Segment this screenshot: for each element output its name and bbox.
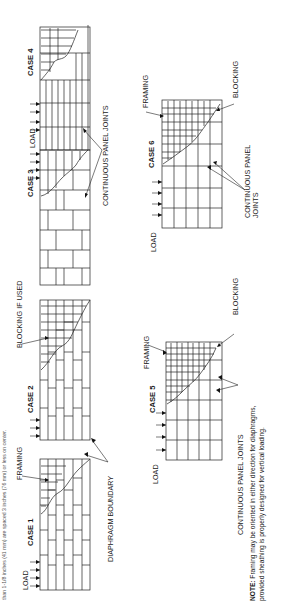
case-6-panel-grid: [162, 100, 222, 228]
case-5-continuous-panel-joints-label: CONTINUOUS PANEL JOINTS: [236, 434, 245, 535]
case-5-continuous-joints-leaders: [216, 375, 238, 393]
case-4-panel-grid: [40, 25, 90, 150]
case-4: CASE 4 LOAD: [26, 25, 90, 150]
case-3-panel-grid: [40, 150, 90, 285]
case-2-title: CASE 2: [26, 386, 35, 413]
note-line-1: NOTE: Framing may be oriented in either …: [249, 405, 257, 601]
case-1-title: CASE 1: [26, 518, 35, 546]
case-1-load-arrows: [30, 560, 40, 588]
case-6-continuous-joints-leaders: [207, 161, 245, 190]
case-4-load-arrows: [30, 102, 40, 132]
case-6-load-arrows: [152, 180, 162, 217]
case-2-blocking-leader: [22, 338, 48, 344]
note-prefix: NOTE:: [249, 580, 256, 601]
case-6: CASE 6 LOAD FRAMING BLOCKING: [141, 60, 260, 252]
case-3-title: CASE 3: [26, 170, 35, 197]
case-1-framing-leader: [22, 476, 48, 480]
case-5-title: CASE 5: [148, 385, 157, 413]
case-2-blocking-label: BLOCKING IF USED: [15, 281, 24, 349]
note: NOTE: Framing may be oriented in either …: [249, 405, 266, 601]
case-1: CASE 1 LOAD FRAMING: [15, 446, 90, 590]
figure-canvas: than 1-1/8 inches (41 mm) are spaced 3 i…: [0, 0, 282, 603]
diaphragm-boundary-label: DIAPHRAGM BOUNDARY: [106, 476, 115, 562]
case-6-title: CASE 6: [147, 141, 156, 168]
case-1-load-label: LOAD: [21, 570, 30, 590]
note-line-1-text: Framing may be oriented in either direct…: [249, 405, 257, 580]
diaphragm-cases-figure: than 1-1/8 inches (41 mm) are spaced 3 i…: [0, 0, 282, 603]
case-4-load-label: LOAD: [28, 128, 37, 148]
case-6-blocking-leader: [218, 104, 234, 110]
case-2-panel-grid: [40, 300, 90, 440]
case-5-load-arrows: [156, 411, 166, 452]
case-2: CASE 2: [15, 281, 90, 441]
caption-fragment: than 1-1/8 inches (41 mm) are spaced 3 i…: [1, 430, 7, 600]
case-6-blocking-label: BLOCKING: [231, 60, 240, 98]
case-6-load-label: LOAD: [149, 232, 158, 252]
case-6-framing-label: FRAMING: [141, 74, 150, 108]
case-5-blocking-leader: [218, 334, 234, 346]
case-2-load-arrows: [30, 418, 40, 438]
case-1-framing-label: FRAMING: [15, 446, 24, 480]
case-5-framing-label: FRAMING: [142, 335, 151, 369]
note-line-2: provided sheathing is properly designed …: [258, 427, 266, 601]
case-5-blocking-label: BLOCKING: [231, 277, 240, 315]
case-4-title: CASE 4: [26, 48, 35, 76]
case-1-panel-grid: [40, 459, 90, 590]
case-6-continuous-panel-label-line2: JOINTS: [251, 192, 260, 218]
case-3: CASE 3: [26, 150, 90, 285]
diaphragm-boundary-leaders: [84, 438, 108, 462]
case-5-panel-grid: [166, 342, 222, 460]
continuous-panel-joints-leaders: [83, 128, 102, 198]
case-5: CASE 5 LOAD FRAMING BLOCKING: [142, 277, 245, 535]
continuous-panel-joints-label: CONTINUOUS PANEL JOINTS: [101, 105, 110, 206]
case-5-load-label: LOAD: [151, 464, 160, 484]
